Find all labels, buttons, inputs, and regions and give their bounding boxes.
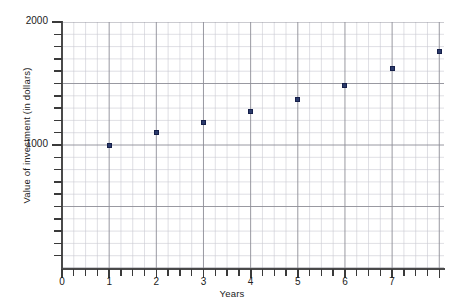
x-axis-tick [97,269,98,276]
x-axis-tick [321,269,322,276]
y-axis-tick [54,157,62,159]
x-axis-tick-label: 5 [288,276,308,287]
data-point [201,120,206,125]
y-axis-tick [54,230,62,232]
y-axis-tick [54,243,62,245]
x-axis-tick [85,269,86,276]
y-axis-tick [54,218,62,220]
x-axis-tick-label: 0 [52,276,72,287]
x-axis-tick [403,269,404,276]
investment-growth-scatter-chart: Value of investment (in dollars) Years 1… [0,0,464,307]
x-axis-tick [132,269,133,276]
x-axis-tick [309,269,310,276]
x-axis-tick-label: 6 [335,276,355,287]
y-axis-tick [54,83,62,85]
y-axis-title: Value of investment (in dollars) [21,36,32,236]
y-axis-tick [54,169,62,171]
y-axis-tick [54,58,62,60]
data-point [248,109,253,114]
x-axis-tick [380,269,381,276]
y-axis-tick [54,107,62,109]
x-axis-tick [415,269,416,276]
data-point [295,97,300,102]
x-axis-tick [332,269,333,276]
y-axis-tick [54,34,62,36]
x-axis-tick-label: 4 [241,276,261,287]
x-axis-title: Years [0,288,464,299]
x-axis-tick-label: 2 [146,276,166,287]
x-axis-tick [191,269,192,276]
x-axis-tick-label: 1 [99,276,119,287]
x-axis-tick [262,269,263,276]
y-axis-tick [54,255,62,257]
data-point [342,83,347,88]
data-point [390,66,395,71]
y-axis-tick [54,193,62,195]
data-point [107,143,112,148]
y-axis-tick [52,21,62,23]
plot-area [62,22,444,268]
y-axis-tick [54,95,62,97]
x-axis-tick [120,269,121,276]
x-axis-tick [368,269,369,276]
y-axis-tick [54,70,62,72]
x-axis-tick [439,269,441,278]
x-axis-tick [215,269,216,276]
x-axis-tick [73,269,74,276]
data-points-layer [62,22,444,268]
y-axis-tick [54,206,62,208]
x-axis-tick [144,269,145,276]
x-axis-tick [238,269,239,276]
x-axis-line [61,268,445,270]
x-axis-tick [285,269,286,276]
x-axis-tick-label: 3 [193,276,213,287]
data-point [154,130,159,135]
x-axis-tick [356,269,357,276]
x-axis-tick [427,269,428,276]
x-axis-tick [274,269,275,276]
y-axis-tick [54,46,62,48]
x-axis-tick [226,269,227,276]
x-axis-tick [167,269,168,276]
y-axis-tick [54,132,62,134]
x-axis-tick [179,269,180,276]
data-point [437,49,442,54]
y-axis-tick [54,181,62,183]
x-axis-tick-label: 7 [382,276,402,287]
y-axis-tick [52,144,62,146]
y-axis-tick [54,120,62,122]
